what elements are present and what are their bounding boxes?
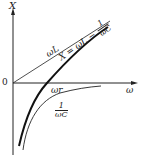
plot-lines	[0, 0, 142, 159]
origin-label: 0	[2, 78, 8, 87]
capacitive-denominator: ωC	[55, 111, 68, 119]
reactance-frequency-diagram: X 0 ω ωr ωL X = ωL − 1 ωC 1 ωC	[0, 0, 142, 159]
capacitive-label: 1 ωC	[55, 102, 68, 119]
resonance-label: ωr	[51, 86, 63, 95]
y-axis-label: X	[9, 1, 16, 11]
x-axis-label: ω	[126, 86, 133, 95]
